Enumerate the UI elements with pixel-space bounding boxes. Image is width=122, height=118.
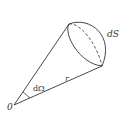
area-element-cap bbox=[69, 22, 106, 66]
solid-angle-label: dΩ bbox=[33, 84, 45, 93]
radius-label: r bbox=[65, 74, 70, 83]
solid-angle-diagram: dS dΩ r 0 bbox=[0, 0, 122, 118]
solid-angle-arc bbox=[23, 92, 30, 98]
cone-rim-front bbox=[68, 24, 102, 66]
area-element-label: dS bbox=[107, 29, 119, 39]
origin-label: 0 bbox=[7, 102, 13, 112]
